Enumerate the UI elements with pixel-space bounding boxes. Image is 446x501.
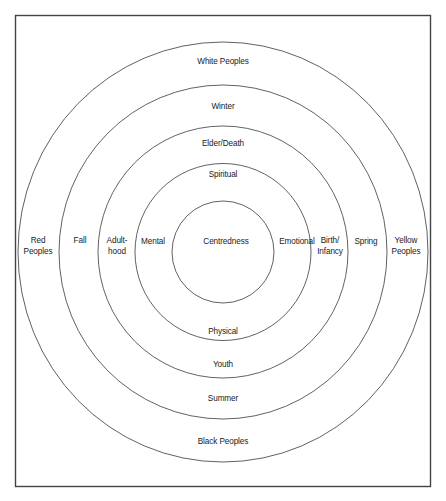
ring-center	[172, 201, 274, 303]
label-birth-infancy-line2: Infancy	[317, 247, 344, 256]
label-yellow-peoples-line1: Yellow	[395, 236, 418, 245]
label-red-peoples-line1: Red	[31, 236, 46, 245]
label-spring: Spring	[354, 237, 378, 246]
label-elder-death: Elder/Death	[202, 139, 245, 148]
label-emotional: Emotional	[279, 237, 315, 246]
label-spiritual: Spiritual	[209, 170, 238, 179]
label-fall: Fall	[74, 236, 87, 245]
label-summer: Summer	[208, 394, 239, 403]
diagram-frame	[16, 16, 431, 487]
center-label: Centredness	[203, 237, 248, 246]
label-adulthood-line2: hood	[108, 247, 126, 256]
label-red-peoples-line2: Peoples	[24, 247, 53, 256]
label-birth-infancy-line1: Birth/	[321, 236, 340, 245]
label-black-peoples: Black Peoples	[198, 437, 249, 446]
ring-self	[135, 164, 311, 341]
medicine-wheel-diagram: Centredness Spiritual Physical Mental Em…	[0, 0, 446, 501]
label-winter: Winter	[211, 102, 234, 111]
label-mental: Mental	[141, 237, 165, 246]
label-physical: Physical	[208, 327, 238, 336]
label-youth: Youth	[213, 360, 234, 369]
label-white-peoples: White Peoples	[197, 57, 249, 66]
label-adulthood-line1: Adult-	[107, 236, 128, 245]
label-yellow-peoples-line2: Peoples	[392, 247, 421, 256]
